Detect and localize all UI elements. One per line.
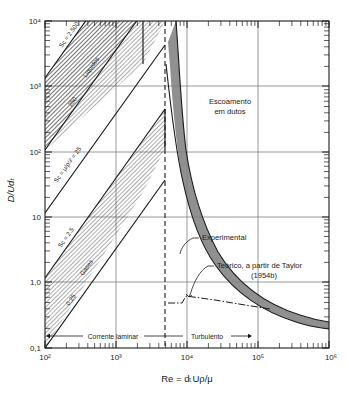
dispersion-chart: 10² 10³ 10⁴ 10⁵ 10⁶ 0,1 1,0 10 10² 10³ 1… — [0, 0, 347, 393]
sc-25-label: Sc = μ/ρ𝒟 = 25 — [52, 145, 82, 184]
svg-text:10: 10 — [32, 213, 41, 222]
svg-text:10³: 10³ — [110, 353, 122, 362]
escoamento-line1: Escoamento — [209, 97, 251, 106]
svg-text:10⁵: 10⁵ — [252, 353, 264, 362]
teorico-line1: Teórico, a partir de Taylor — [217, 261, 303, 270]
x-axis-title: Re = dₜUρ/μ — [161, 373, 213, 384]
y-axis-title: D/Udₜ — [5, 178, 16, 203]
y-tick-label-3: 10² — [29, 148, 41, 157]
x-tick-labels: 10² 10³ 10⁴ 10⁵ 10⁶ — [39, 353, 337, 362]
y-tick-label-5: 10⁴ — [29, 17, 42, 26]
svg-text:0,1: 0,1 — [30, 344, 42, 353]
y-tick-label-0: 0,1 — [30, 344, 42, 353]
svg-text:10³: 10³ — [29, 82, 41, 91]
x-tick-label-1: 10³ — [110, 353, 122, 362]
turbulent-dispersion-band — [166, 21, 329, 329]
sc-25-line-label: Sc = μ/ρ𝒟 = 25 — [52, 145, 82, 184]
y-tick-label-1: 1,0 — [30, 278, 42, 287]
turbulento-label: Turbulento — [191, 333, 223, 340]
svg-text:10²: 10² — [29, 148, 41, 157]
turbulento-marker: Turbulento — [165, 333, 248, 340]
x-tick-label-3: 10⁵ — [252, 353, 264, 362]
svg-text:10²: 10² — [39, 353, 51, 362]
svg-text:10⁶: 10⁶ — [325, 353, 337, 362]
escoamento-line2: em dutos — [214, 107, 245, 116]
y-tick-label-2: 10 — [32, 213, 41, 222]
chart-figure: 10² 10³ 10⁴ 10⁵ 10⁶ 0,1 1,0 10 10² 10³ 1… — [0, 0, 347, 393]
teorico-line2: (1954b) — [251, 271, 278, 280]
svg-text:10⁴: 10⁴ — [181, 353, 194, 362]
experimental-label: Experimental — [202, 233, 247, 242]
x-tick-label-0: 10² — [39, 353, 51, 362]
y-tick-labels: 0,1 1,0 10 10² 10³ 10⁴ — [29, 17, 42, 353]
gases-band — [45, 109, 165, 348]
svg-text:10⁴: 10⁴ — [29, 17, 42, 26]
corrente-laminar-label: Corrente laminar — [88, 333, 139, 340]
corrente-laminar-marker: Corrente laminar — [50, 333, 165, 340]
svg-text:1,0: 1,0 — [30, 278, 42, 287]
x-tick-label-4: 10⁶ — [325, 353, 337, 362]
y-tick-label-4: 10³ — [29, 82, 41, 91]
escoamento-em-dutos-annotation: Escoamento em dutos — [209, 97, 251, 116]
x-tick-label-2: 10⁴ — [181, 353, 194, 362]
